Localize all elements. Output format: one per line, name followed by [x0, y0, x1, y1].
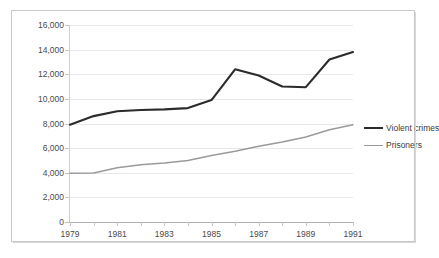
x-axis-tick: [282, 222, 283, 226]
x-axis-tick: [141, 222, 142, 226]
x-axis-tick-label: 1983: [155, 229, 174, 239]
x-axis-tick: [117, 222, 118, 226]
legend-swatch-icon: [364, 127, 383, 129]
x-axis-tick: [353, 222, 354, 226]
plot-area: [70, 25, 353, 222]
x-axis-tick: [212, 222, 213, 226]
x-axis-tick-label: 1985: [202, 229, 221, 239]
chart-legend: Violent crimesPrisoners: [364, 123, 439, 157]
y-axis-tick-label: 6,000: [16, 144, 64, 153]
x-axis-tick-label: 1989: [296, 229, 315, 239]
x-axis-tick: [188, 222, 189, 226]
x-axis-tick-label: 1979: [61, 229, 80, 239]
y-axis-tick-label: 4,000: [16, 168, 64, 177]
series-lines: [70, 25, 353, 222]
legend-item-label: Violent crimes: [386, 123, 439, 133]
legend-item-violent-crimes[interactable]: Violent crimes: [364, 123, 439, 133]
y-axis-tick-label: 2,000: [16, 193, 64, 202]
x-axis-tick: [259, 222, 260, 226]
series-line-prisoners: [70, 125, 353, 174]
x-axis-tick: [329, 222, 330, 226]
x-axis-tick: [235, 222, 236, 226]
y-axis-tick-label: 0: [16, 218, 64, 227]
y-axis-tick-label: 14,000: [16, 45, 64, 54]
x-axis-tick: [164, 222, 165, 226]
legend-item-label: Prisoners: [386, 140, 422, 150]
y-axis-tick-label: 10,000: [16, 94, 64, 103]
y-axis-tick-label: 12,000: [16, 70, 64, 79]
x-axis-tick: [306, 222, 307, 226]
x-axis-tick-label: 1981: [108, 229, 127, 239]
chart-frame: 16,00014,00012,00010,0008,0006,0004,0002…: [11, 10, 415, 242]
y-axis-labels: 16,00014,00012,00010,0008,0006,0004,0002…: [14, 25, 64, 222]
y-axis-tick-label: 8,000: [16, 119, 64, 128]
x-axis-tick-label: 1991: [344, 229, 363, 239]
x-axis-tick-label: 1987: [249, 229, 268, 239]
legend-swatch-icon: [364, 145, 383, 146]
y-axis-tick-label: 16,000: [16, 21, 64, 30]
x-axis-tick: [94, 222, 95, 226]
series-line-violent-crimes: [70, 52, 353, 125]
legend-item-prisoners[interactable]: Prisoners: [364, 140, 439, 150]
x-axis-tick: [70, 222, 71, 226]
